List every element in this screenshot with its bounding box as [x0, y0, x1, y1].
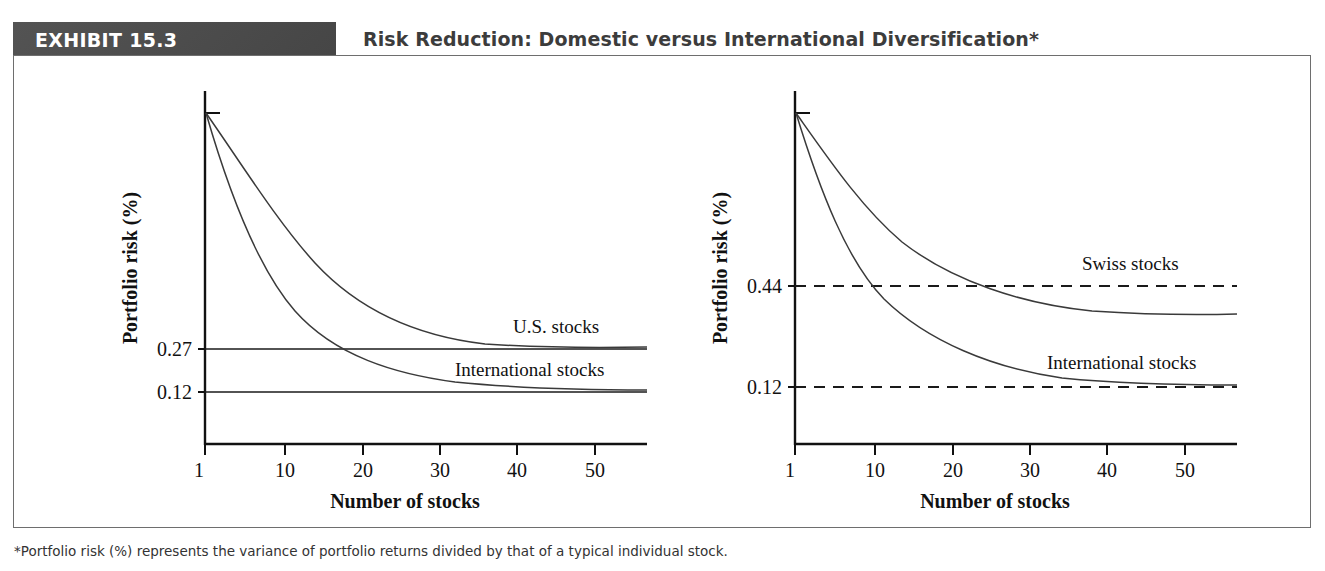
right-x-axis-title: Number of stocks: [920, 490, 1070, 512]
left-y-axis-title: Portfolio risk (%): [119, 192, 142, 344]
left-x-tick-label-5: 50: [585, 459, 605, 481]
left-x-tick-label-2: 20: [353, 459, 373, 481]
right-curve-swiss: [796, 113, 1237, 315]
left-series-label-us: U.S. stocks: [513, 316, 599, 337]
left-x-tick-label-4: 40: [507, 459, 527, 481]
chart-frame: 1 10 20 30 40 50 0.27 0.12 Number of sto…: [13, 55, 1311, 528]
left-x-axis-title: Number of stocks: [330, 490, 480, 512]
left-curve-us: [206, 113, 647, 348]
left-x-tick-label-3: 30: [430, 459, 450, 481]
right-x-tick-labels: 1 10 20 30 40 50: [785, 459, 1195, 481]
right-x-tick-label-2: 20: [943, 459, 963, 481]
exhibit-header: EXHIBIT 15.3 Risk Reduction: Domestic ve…: [13, 22, 1312, 58]
right-x-tick-label-1: 10: [865, 459, 885, 481]
left-x-ticks: [205, 444, 595, 455]
right-x-ticks: [795, 444, 1185, 455]
left-series-label-international: International stocks: [455, 359, 604, 380]
left-y-tick-labels: 0.27 0.12: [157, 338, 192, 403]
right-y-tick-labels: 0.44 0.12: [747, 275, 782, 398]
left-x-tick-label-0: 1: [194, 459, 204, 481]
left-y-tick-label-1: 0.12: [157, 381, 192, 403]
right-x-tick-label-0: 1: [785, 459, 795, 481]
right-x-tick-label-4: 40: [1097, 459, 1117, 481]
exhibit-number-badge: EXHIBIT 15.3: [13, 22, 336, 58]
left-x-tick-labels: 1 10 20 30 40 50: [194, 459, 605, 481]
right-series-label-international: International stocks: [1047, 352, 1196, 373]
right-x-tick-label-5: 50: [1175, 459, 1195, 481]
right-series-label-swiss: Swiss stocks: [1082, 253, 1179, 274]
right-curve-international: [796, 113, 1237, 385]
exhibit-title: Risk Reduction: Domestic versus Internat…: [363, 28, 1039, 50]
right-y-tick-label-1: 0.12: [747, 376, 782, 398]
exhibit-figure: EXHIBIT 15.3 Risk Reduction: Domestic ve…: [0, 0, 1325, 571]
right-y-axis-title: Portfolio risk (%): [709, 192, 732, 344]
exhibit-number-label: EXHIBIT 15.3: [35, 29, 177, 51]
chart-panel-right: 1 10 20 30 40 50 0.44 0.12 Number of sto…: [662, 56, 1312, 527]
left-chart-svg: 1 10 20 30 40 50 0.27 0.12 Number of sto…: [15, 56, 665, 527]
chart-panel-left: 1 10 20 30 40 50 0.27 0.12 Number of sto…: [15, 56, 665, 527]
right-chart-svg: 1 10 20 30 40 50 0.44 0.12 Number of sto…: [662, 56, 1312, 527]
left-x-tick-label-1: 10: [275, 459, 295, 481]
left-y-tick-label-0: 0.27: [157, 338, 192, 360]
right-y-tick-label-0: 0.44: [747, 275, 782, 297]
exhibit-footnote: *Portfolio risk (%) represents the varia…: [14, 543, 728, 559]
right-x-tick-label-3: 30: [1020, 459, 1040, 481]
